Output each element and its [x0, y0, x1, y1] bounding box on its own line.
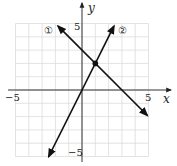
coordinate-plane	[0, 0, 177, 166]
line-1-label: ①	[44, 26, 53, 36]
line-2-label: ②	[118, 26, 127, 36]
lines	[49, 26, 147, 156]
y-min-tick-label: −5	[68, 148, 83, 158]
x-axis-label: x	[163, 93, 170, 105]
x-min-tick-label: −5	[5, 93, 20, 103]
line-2	[49, 26, 114, 156]
axes	[8, 3, 171, 162]
intersection-point	[93, 61, 99, 67]
y-axis-label: y	[88, 2, 95, 14]
line-1	[58, 26, 147, 115]
y-max-tick-label: 5	[74, 22, 80, 32]
x-max-tick-label: 5	[145, 93, 151, 103]
